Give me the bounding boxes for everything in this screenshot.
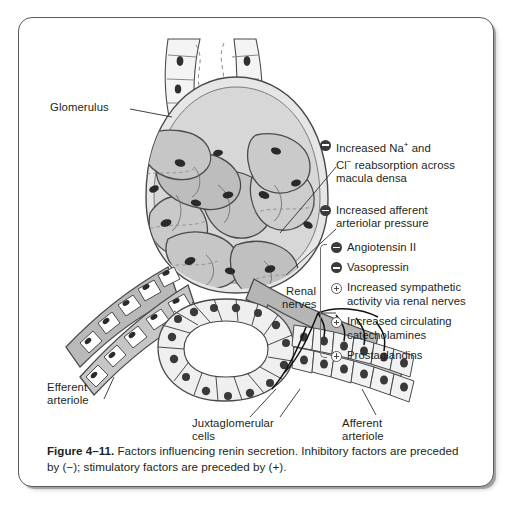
factor-label: Increased circulatingcatecholamines [342,315,452,342]
factor-label: Vasopressin [342,261,409,274]
juxtaglomerular-cell-ring [158,299,294,401]
minus-sign-icon [320,140,331,151]
figure-panel: Glomerulus Efferent arteriole Juxtaglome… [0,0,523,508]
factor-item-afferent-arteriolar-pressure: Increased afferentarteriolar pressure [320,204,480,231]
label-afferent-arteriole-line1: Afferent [342,417,382,430]
label-efferent-arteriole-line1: Efferent [47,381,87,394]
minus-sign-icon [331,242,342,253]
plus-sign-icon [331,351,342,362]
factor-item-angiotensin-ii: Angiotensin II [331,241,480,254]
label-renal-nerves-line1: Renal [286,285,316,298]
label-efferent-arteriole-line2: arteriole [47,394,89,407]
figure-caption: Figure 4–11. Factors influencing renin s… [47,443,467,474]
factor-label: Angiotensin II [342,241,416,254]
factor-item-vasopressin: Vasopressin [331,261,480,274]
factor-item-circulating-catecholamines: Increased circulatingcatecholamines [331,315,480,342]
plus-sign-icon [331,283,342,294]
factor-label: Prostaglandins [342,349,422,362]
factor-label: Increased Na+ andCl− reabsorption across… [331,138,455,186]
label-juxtaglomerular-cells-line1: Juxtaglomerular [192,417,274,430]
figure-number: Figure 4–11. [47,444,114,457]
factor-item-prostaglandins: Prostaglandins [331,349,480,362]
label-glomerulus: Glomerulus [50,101,109,114]
label-juxtaglomerular-cells-line2: cells [192,430,215,443]
minus-sign-icon [320,205,331,216]
factor-item-sodium-chloride-reabsorption: Increased Na+ andCl− reabsorption across… [320,138,480,186]
label-afferent-arteriole-line2: arteriole [342,430,384,443]
factors-list: Increased Na+ andCl− reabsorption across… [320,138,480,362]
factor-label: Increased afferentarteriolar pressure [331,204,429,231]
plus-sign-icon [331,317,342,328]
label-renal-nerves-line2: nerves [282,298,317,311]
minus-sign-icon [331,262,342,273]
factor-item-sympathetic-activity: Increased sympatheticactivity via renal … [331,281,480,308]
factor-label: Increased sympatheticactivity via renal … [342,281,466,308]
factors-grouped-bracket: Angiotensin II Vasopressin Increased sym… [320,241,480,363]
